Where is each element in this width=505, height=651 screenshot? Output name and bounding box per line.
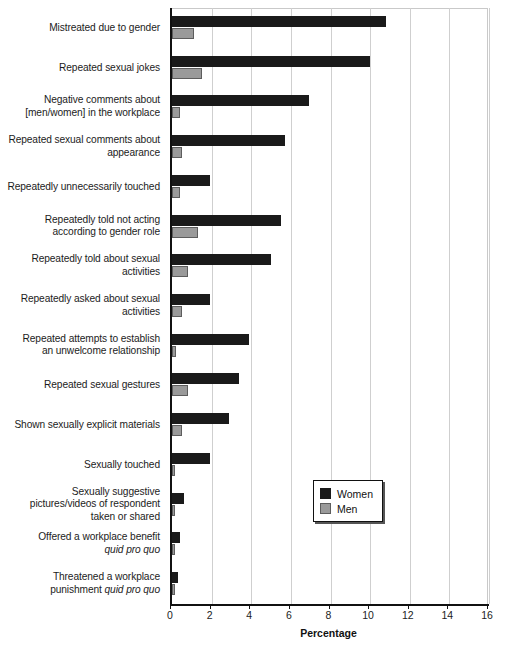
bar-men — [172, 68, 202, 79]
x-tick-label-14: 14 — [442, 609, 454, 621]
bar-men — [172, 147, 182, 158]
category-label: Threatened a workplace punishment quid p… — [0, 572, 160, 597]
bar-women — [172, 572, 178, 583]
x-tick-label-6: 6 — [286, 609, 292, 621]
bar-men — [172, 187, 180, 198]
legend-item-men: Men — [320, 501, 373, 516]
bar-men — [172, 465, 175, 476]
x-tick-mark-16 — [487, 605, 488, 609]
bar-men — [172, 505, 175, 516]
category-label: Sexually suggestive pictures/videos of r… — [0, 486, 160, 524]
x-tick-label-16: 16 — [481, 609, 493, 621]
bar-women — [172, 135, 285, 146]
bar-women — [172, 175, 210, 186]
category-label: Sexually touched — [0, 459, 160, 472]
gridline-12 — [410, 8, 411, 604]
x-tick-mark-14 — [447, 605, 448, 609]
category-label: Mistreated due to gender — [0, 22, 160, 35]
bar-men — [172, 385, 188, 396]
category-label: Offered a workplace benefit quid pro quo — [0, 532, 160, 557]
legend-label-women: Women — [337, 488, 373, 500]
x-tick-label-0: 0 — [167, 609, 173, 621]
bar-women — [172, 493, 184, 504]
bar-men — [172, 266, 188, 277]
bar-men — [172, 306, 182, 317]
bar-men — [172, 107, 180, 118]
x-axis-title: Percentage — [170, 627, 487, 639]
gridline-16 — [489, 8, 490, 604]
bar-women — [172, 334, 249, 345]
horizontal-bar-chart: Mistreated due to genderRepeated sexual … — [0, 0, 505, 651]
category-label: Repeatedly told about sexual activities — [0, 254, 160, 279]
x-tick-mark-6 — [289, 605, 290, 609]
chart-legend: Women Men — [313, 480, 383, 522]
legend-item-women: Women — [320, 486, 373, 501]
x-tick-mark-8 — [329, 605, 330, 609]
category-label: Repeatedly told not acting according to … — [0, 214, 160, 239]
category-label: Shown sexually explicit materials — [0, 419, 160, 432]
x-tick-mark-0 — [170, 605, 171, 609]
bar-women — [172, 413, 229, 424]
bar-men — [172, 425, 182, 436]
bar-women — [172, 254, 271, 265]
bar-women — [172, 453, 210, 464]
legend-swatch-women-icon — [320, 488, 331, 499]
bar-women — [172, 95, 309, 106]
x-tick-mark-4 — [249, 605, 250, 609]
category-label: Repeated sexual gestures — [0, 379, 160, 392]
x-tick-mark-10 — [368, 605, 369, 609]
category-label: Repeatedly asked about sexual activities — [0, 293, 160, 318]
bar-women — [172, 294, 210, 305]
bar-men — [172, 544, 175, 555]
category-label: Repeated sexual jokes — [0, 61, 160, 74]
gridline-14 — [449, 8, 450, 604]
bar-men — [172, 227, 198, 238]
x-tick-mark-12 — [408, 605, 409, 609]
bar-men — [172, 584, 175, 595]
bar-women — [172, 532, 180, 543]
category-label: Repeated sexual comments about appearanc… — [0, 134, 160, 159]
bar-men — [172, 28, 194, 39]
x-tick-label-8: 8 — [326, 609, 332, 621]
x-tick-mark-2 — [210, 605, 211, 609]
x-tick-label-4: 4 — [246, 609, 252, 621]
category-label: Negative comments about [men/women] in t… — [0, 95, 160, 120]
bar-women — [172, 16, 386, 27]
bar-men — [172, 346, 176, 357]
category-label: Repeated attempts to establish an unwelc… — [0, 333, 160, 358]
legend-label-men: Men — [337, 503, 357, 515]
bar-women — [172, 215, 281, 226]
category-label: Repeatedly unnecessarily touched — [0, 181, 160, 194]
legend-swatch-men-icon — [320, 503, 331, 514]
x-tick-label-12: 12 — [402, 609, 414, 621]
bar-women — [172, 373, 239, 384]
x-tick-label-2: 2 — [207, 609, 213, 621]
x-tick-label-10: 10 — [362, 609, 374, 621]
bar-women — [172, 56, 370, 67]
category-axis-labels: Mistreated due to genderRepeated sexual … — [0, 8, 164, 604]
